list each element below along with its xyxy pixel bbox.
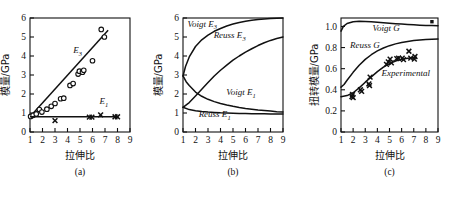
- x-tick-label: 1: [181, 135, 186, 145]
- y-tick-label: 6: [175, 13, 180, 23]
- x-tick-label: 1: [28, 135, 33, 145]
- y-axis-title: 模量/GPa: [153, 54, 164, 97]
- x-tick-label: 1: [338, 135, 343, 145]
- curve-annotation: Voigt E3: [188, 19, 218, 31]
- y-axis-title: 模量/GPa: [0, 54, 11, 97]
- curve-annotation: E3: [72, 45, 83, 57]
- y-tick-label: 0: [332, 127, 337, 137]
- data-point-circle: [53, 101, 58, 106]
- x-axis-title: 拉伸比: [65, 149, 95, 161]
- fit-line-e3: [30, 30, 108, 116]
- y-tick-label: 1: [21, 108, 26, 118]
- x-tick-label: 6: [90, 135, 95, 145]
- figure-container: 1234567890123456拉伸比模量/GPa(a)E3E1 1234567…: [0, 0, 460, 197]
- x-tick-label: 3: [206, 135, 211, 145]
- x-tick-label: 4: [375, 135, 380, 145]
- x-tick-label: 3: [53, 135, 58, 145]
- x-tick-label: 2: [40, 135, 45, 145]
- panel-caption: (a): [75, 167, 86, 178]
- data-point-x: [53, 118, 58, 123]
- curve-annotation: Reuss E1: [198, 109, 231, 121]
- data-point-circle: [71, 81, 76, 86]
- y-tick-label: 0: [175, 127, 180, 137]
- y-tick-label: 0.4: [325, 85, 337, 95]
- x-tick-label: 6: [243, 135, 248, 145]
- curve-annotation: Voigt G: [372, 23, 400, 33]
- panel-caption: (c): [384, 167, 395, 178]
- y-tick-label: 0: [21, 127, 26, 137]
- curve-annotation: E1: [98, 96, 108, 108]
- y-tick-label: 1: [175, 108, 180, 118]
- y-tick-label: 3: [21, 70, 26, 80]
- data-point-circle: [81, 68, 86, 73]
- data-point-circle: [61, 96, 66, 101]
- y-tick-label: 5: [175, 32, 180, 42]
- y-tick-label: 0.2: [325, 106, 337, 116]
- y-tick-label: 4: [21, 51, 26, 61]
- x-tick-label: 8: [423, 135, 428, 145]
- chart-c: 12345678900.20.40.60.81.0拉伸比扭转模量/GPa(c)V…: [307, 0, 460, 197]
- curve-annotation: Reuss E3: [213, 30, 247, 42]
- x-tick-label: 3: [362, 135, 367, 145]
- panel-b: 1234567890123456拉伸比模量/GPa(b)Voigt E3Reus…: [153, 0, 306, 197]
- y-tick-label: 6: [21, 13, 26, 23]
- y-tick-label: 4: [175, 51, 180, 61]
- y-tick-label: 2: [21, 89, 26, 99]
- y-tick-label: 1.0: [325, 22, 337, 32]
- x-tick-label: 8: [268, 135, 273, 145]
- x-tick-label: 4: [218, 135, 223, 145]
- panel-a: 1234567890123456拉伸比模量/GPa(a)E3E1: [0, 0, 153, 197]
- data-point-circle: [34, 112, 39, 117]
- chart-a: 1234567890123456拉伸比模量/GPa(a)E3E1: [0, 0, 153, 197]
- x-tick-label: 8: [115, 135, 120, 145]
- panel-caption: (b): [228, 167, 239, 178]
- data-point-circle: [45, 107, 50, 112]
- y-axis-title: 扭转模量/GPa: [308, 44, 320, 107]
- data-point-circle: [99, 27, 104, 32]
- data-point-x: [406, 49, 411, 54]
- y-tick-label: 3: [175, 70, 180, 80]
- x-tick-label: 2: [193, 135, 198, 145]
- y-tick-label: 5: [21, 32, 26, 42]
- data-point-circle: [90, 58, 95, 63]
- data-point-square: [430, 20, 433, 23]
- y-tick-label: 2: [175, 89, 180, 99]
- x-tick-label: 5: [387, 135, 392, 145]
- x-tick-label: 9: [281, 135, 286, 145]
- x-tick-label: 7: [256, 135, 261, 145]
- panel-c: 12345678900.20.40.60.81.0拉伸比扭转模量/GPa(c)V…: [307, 0, 460, 197]
- x-tick-label: 7: [411, 135, 416, 145]
- data-point-x: [359, 89, 364, 94]
- data-point-circle: [102, 35, 107, 40]
- x-tick-label: 5: [78, 135, 83, 145]
- x-axis-title: 拉伸比: [374, 149, 404, 161]
- x-tick-label: 6: [399, 135, 404, 145]
- curve-annotation: Reuss G: [349, 40, 380, 50]
- curve-annotation: Experimental: [380, 68, 430, 78]
- x-tick-label: 2: [350, 135, 355, 145]
- x-tick-label: 5: [231, 135, 236, 145]
- x-tick-label: 9: [128, 135, 133, 145]
- y-tick-label: 0.6: [325, 64, 337, 74]
- x-tick-label: 9: [435, 135, 440, 145]
- chart-b: 1234567890123456拉伸比模量/GPa(b)Voigt E3Reus…: [153, 0, 306, 197]
- curve-annotation: Voigt E1: [226, 87, 256, 99]
- x-tick-label: 4: [65, 135, 70, 145]
- y-tick-label: 0.8: [325, 43, 337, 53]
- data-point-circle: [40, 110, 45, 115]
- x-axis-title: 拉伸比: [218, 149, 248, 161]
- x-tick-label: 7: [103, 135, 108, 145]
